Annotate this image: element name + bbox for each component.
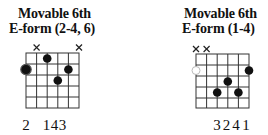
chord-diagram-2: Movable 6th E-form (1-4) 3 — [0, 0, 268, 135]
root-hollow-icon — [192, 67, 200, 75]
fretboard-grid — [0, 0, 268, 135]
finger-number: 3 — [213, 118, 221, 133]
finger-dot-icon — [234, 88, 243, 97]
finger-dot-icon — [245, 66, 254, 75]
finger-number: 2 — [223, 118, 231, 133]
finger-number: 4 — [232, 118, 240, 133]
finger-dot-icon — [224, 77, 233, 86]
finger-dot-icon — [213, 88, 222, 97]
finger-number: 1 — [242, 118, 250, 133]
muted-x-icon — [193, 46, 210, 52]
